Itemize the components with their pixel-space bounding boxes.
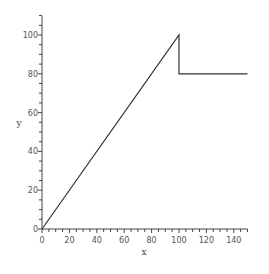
x-tick-label: 100	[171, 236, 186, 245]
y-tick-label: 20	[28, 186, 38, 195]
y-tick-label: 0	[33, 225, 38, 234]
x-tick-label: 80	[147, 236, 157, 245]
x-tick-label: 60	[119, 236, 129, 245]
data-line	[42, 35, 248, 229]
y-tick-label: 100	[23, 31, 38, 40]
axes	[42, 16, 248, 229]
x-tick-label: 0	[39, 236, 44, 245]
x-tick-label: 120	[199, 236, 214, 245]
ticks	[38, 16, 248, 233]
y-tick-label: 40	[28, 147, 38, 156]
y-tick-label: 80	[28, 70, 38, 79]
x-axis-label: x	[141, 247, 146, 257]
y-tick-label: 60	[28, 109, 38, 118]
x-tick-label: 140	[226, 236, 241, 245]
x-tick-label: 40	[92, 236, 102, 245]
y-axis-label: y	[15, 118, 22, 128]
chart: 020406080100120140020406080100 x y	[0, 0, 269, 274]
x-tick-label: 20	[64, 236, 74, 245]
tick-labels: 020406080100120140020406080100	[23, 31, 242, 245]
